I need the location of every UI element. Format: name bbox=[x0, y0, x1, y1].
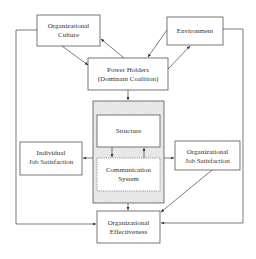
power-label-2: (Dominant Coalition) bbox=[98, 75, 159, 83]
node-power-holders: Power Holders (Dominant Coalition) bbox=[88, 58, 168, 90]
node-organizational-culture: Organizational Culture bbox=[37, 15, 100, 46]
power-label-1: Power Holders bbox=[107, 66, 149, 74]
organizational-effectiveness-diagram: Organizational Culture Environment Power… bbox=[0, 0, 256, 259]
culture-label-1: Organizational bbox=[48, 22, 90, 30]
edge-power-to-environment bbox=[168, 46, 190, 69]
node-organizational-job-satisfaction: Organizational Job Satisfaction bbox=[175, 141, 240, 170]
effectiveness-label-1: Organizational bbox=[108, 219, 150, 227]
edge-orgjob-to-effectiveness bbox=[161, 170, 212, 212]
structure-label: Structure bbox=[116, 127, 142, 135]
orgjob-label-1: Organizational bbox=[187, 148, 229, 156]
effectiveness-label-2: Effectiveness bbox=[110, 228, 148, 236]
culture-label-2: Culture bbox=[58, 31, 79, 39]
communication-label-1: Communication bbox=[106, 166, 152, 174]
edge-culture-to-effectiveness bbox=[16, 30, 96, 224]
edge-culture-to-power bbox=[62, 46, 88, 65]
individual-label-1: Individual bbox=[37, 149, 66, 157]
communication-label-2: System bbox=[118, 175, 139, 183]
edge-environment-to-power bbox=[148, 30, 167, 57]
node-structure: Structure bbox=[97, 115, 160, 147]
individual-label-2: Job Satisfaction bbox=[29, 158, 74, 166]
node-communication-system: Communication System bbox=[97, 158, 160, 191]
node-individual-job-satisfaction: Individual Job Satisfaction bbox=[20, 142, 82, 175]
orgjob-label-2: Job Satisfaction bbox=[185, 157, 230, 165]
environment-label: Environment bbox=[177, 27, 214, 35]
node-environment: Environment bbox=[167, 17, 223, 45]
edge-power-to-culture bbox=[101, 39, 124, 58]
node-organizational-effectiveness: Organizational Effectiveness bbox=[97, 211, 160, 243]
edge-environment-to-effectiveness bbox=[161, 29, 243, 223]
